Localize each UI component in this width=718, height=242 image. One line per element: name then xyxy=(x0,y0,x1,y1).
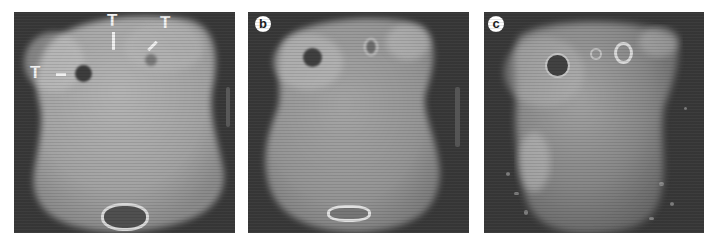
annotation-t-top: T xyxy=(107,12,117,29)
scan-panel-b: b xyxy=(248,12,469,233)
lesion-ring xyxy=(617,45,630,61)
lesion-spot xyxy=(547,55,568,76)
lesion-spot xyxy=(303,48,322,67)
noise-speck xyxy=(649,217,654,220)
noise-speck xyxy=(524,210,528,215)
panel-label-c: c xyxy=(488,16,504,32)
scan-panel-a: T T T xyxy=(14,12,235,233)
lesion-spot-secondary xyxy=(366,40,376,54)
body-silhouette xyxy=(248,12,469,233)
noise-speck xyxy=(506,172,510,176)
lesion-spot xyxy=(75,65,92,82)
body-silhouette xyxy=(484,12,704,233)
noise-speck xyxy=(514,192,519,195)
noise-speck xyxy=(684,107,687,110)
noise-speck xyxy=(670,202,674,206)
panel-label-b: b xyxy=(255,16,271,32)
lesion-ring-small xyxy=(592,50,600,58)
noise-speck xyxy=(659,182,664,186)
noise-speck xyxy=(455,87,460,147)
annotation-t-right: T xyxy=(160,14,170,31)
bladder-region xyxy=(104,206,146,228)
annotation-marker-left xyxy=(56,73,66,76)
body-silhouette xyxy=(14,12,235,233)
scan-panel-c: c xyxy=(484,12,704,233)
lesion-spot-secondary xyxy=(145,54,157,66)
annotation-marker-top xyxy=(112,32,115,50)
bladder-region xyxy=(330,208,368,219)
annotation-t-left: T xyxy=(30,64,40,81)
noise-speck xyxy=(226,87,230,127)
